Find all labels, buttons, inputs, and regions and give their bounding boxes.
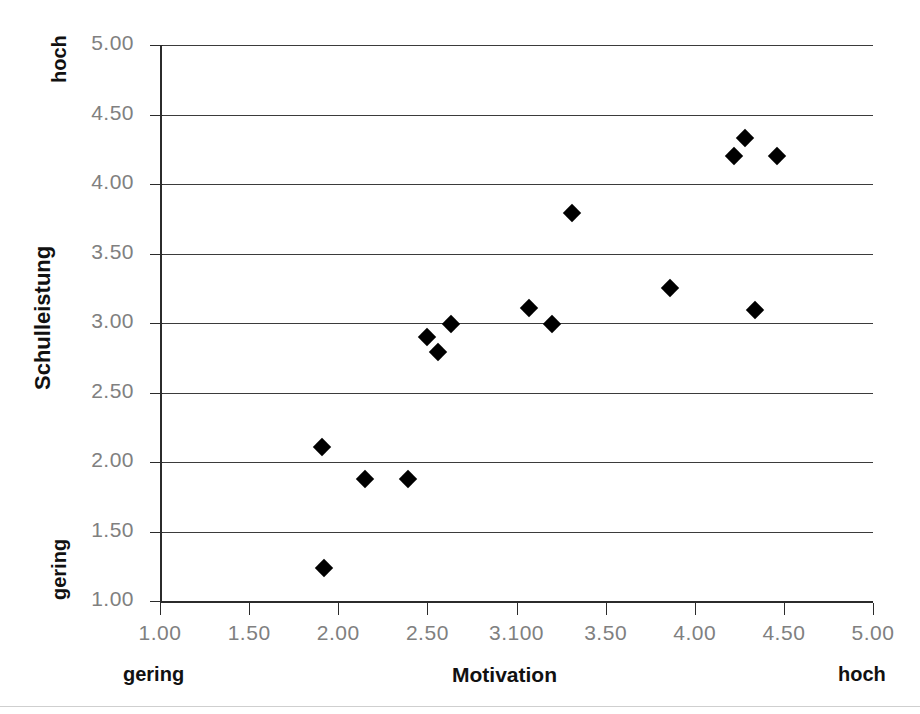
y-axis-tick-label: 4.00 [62, 170, 134, 194]
x-axis-tick-label: 2.50 [382, 621, 472, 645]
x-axis-tick-label: 5.00 [828, 621, 918, 645]
data-point [418, 328, 436, 346]
data-point [768, 147, 786, 165]
x-axis-tick-label: 4.00 [650, 621, 740, 645]
gridline [160, 254, 873, 255]
bottom-divider [0, 706, 920, 707]
y-axis-tick-label: 4.50 [62, 101, 134, 125]
y-axis-line [160, 45, 162, 601]
scatter-chart: Schulleistung hoch gering 1.001.502.002.… [0, 0, 920, 714]
x-axis-high-annotation: hoch [838, 663, 886, 686]
gridline [160, 323, 873, 324]
data-point [441, 315, 459, 333]
y-axis-tick-label: 3.50 [62, 240, 134, 264]
x-axis-tick-label: 3.100 [472, 621, 562, 645]
y-axis-tick-label: 1.00 [62, 587, 134, 611]
gridline [160, 184, 873, 185]
data-point [356, 469, 374, 487]
x-axis-tick [695, 603, 696, 615]
gridline [160, 115, 873, 116]
x-axis-tick-label: 3.50 [561, 621, 651, 645]
gridline [160, 45, 873, 46]
data-point [429, 343, 447, 361]
gridline [160, 532, 873, 533]
y-axis-title: Schulleistung [30, 246, 56, 390]
x-axis-tick [249, 603, 250, 615]
y-axis-tick [150, 393, 163, 394]
data-point [735, 129, 753, 147]
y-axis-tick-label: 3.00 [62, 309, 134, 333]
x-axis-tick [784, 603, 785, 615]
x-axis-tick-label: 1.00 [115, 621, 205, 645]
x-axis-tick-label: 1.50 [204, 621, 294, 645]
data-point [746, 301, 764, 319]
data-point [563, 204, 581, 222]
x-axis-tick [873, 603, 874, 615]
y-axis-tick-label: 5.00 [62, 31, 134, 55]
x-axis-tick [427, 603, 428, 615]
x-axis-tick [606, 603, 607, 615]
y-axis-tick [150, 254, 163, 255]
y-axis-tick [150, 532, 163, 533]
y-axis-tick [150, 45, 163, 46]
y-axis-tick [150, 115, 163, 116]
y-axis-tick [150, 323, 163, 324]
x-axis-tick [517, 603, 518, 615]
x-axis-tick-label: 2.00 [293, 621, 383, 645]
data-point [520, 299, 538, 317]
y-axis-tick-label: 1.50 [62, 518, 134, 542]
x-axis-tick [338, 603, 339, 615]
data-point [661, 279, 679, 297]
x-axis-tick-label: 4.50 [739, 621, 829, 645]
data-point [543, 315, 561, 333]
y-axis-tick [150, 184, 163, 185]
data-point [315, 558, 333, 576]
y-axis-tick-label: 2.50 [62, 379, 134, 403]
gridline [160, 393, 873, 394]
data-point [725, 147, 743, 165]
plot-area [160, 45, 873, 601]
y-axis-tick [150, 462, 163, 463]
y-axis-tick-label: 2.00 [62, 448, 134, 472]
x-axis-line [160, 601, 873, 603]
x-axis-title: Motivation [452, 663, 557, 687]
data-point [313, 438, 331, 456]
x-axis-tick [160, 603, 161, 615]
gridline [160, 462, 873, 463]
x-axis-low-annotation: gering [123, 663, 184, 686]
data-point [399, 469, 417, 487]
